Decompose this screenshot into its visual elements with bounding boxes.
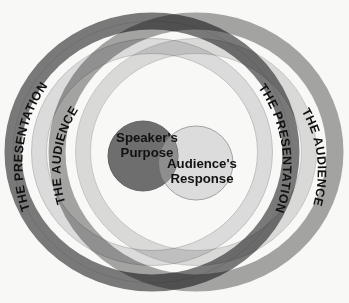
presentation-audience-diagram: THE PRESENTATION THE AUDIENCE THE PRESEN… — [0, 0, 349, 303]
diagram-canvas: THE PRESENTATION THE AUDIENCE THE PRESEN… — [0, 0, 349, 303]
audiences-response-line2: Response — [170, 171, 233, 186]
speakers-purpose-line2: Purpose — [121, 145, 174, 160]
audiences-response-label: Audience's Response — [167, 156, 237, 186]
audiences-response-line1: Audience's — [167, 156, 237, 171]
speakers-purpose-line1: Speaker's — [116, 130, 178, 145]
